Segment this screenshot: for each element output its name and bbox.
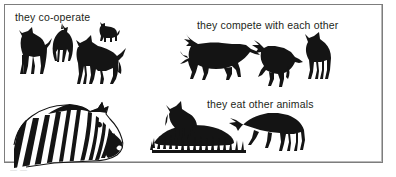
dog-standing-left-icon — [19, 27, 52, 74]
dog-head-down-feeding-icon — [229, 113, 305, 151]
scan-artifact: — — — [10, 167, 36, 173]
caption-compete: they compete with each other — [197, 19, 338, 31]
dog-large-facing-front-left-icon — [76, 35, 126, 84]
dog-rear-view-icon — [53, 23, 73, 62]
figure-page: they co-operate they compete with each o… — [0, 0, 396, 177]
illustration-competing-dogs — [180, 32, 332, 88]
dog-lunging-left-icon — [180, 34, 260, 80]
illustration-cooperating-dogs — [14, 22, 134, 84]
dog-small-distant-icon — [100, 22, 121, 42]
illustration-dogs-eating — [150, 100, 312, 158]
illustration-zebra-head — [14, 96, 144, 168]
dog-crouching-tussle-icon — [252, 40, 303, 87]
dog-standing-upright-icon — [305, 32, 331, 79]
zebra-head-shape — [10, 96, 144, 168]
